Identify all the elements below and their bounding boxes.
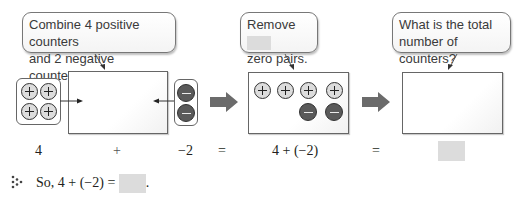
negative-counter-icon: [299, 103, 317, 121]
positive-counter-icon: [21, 103, 38, 120]
dotted-triangle-icon: [10, 174, 24, 190]
equals-sign: =: [218, 143, 226, 159]
callout-combine: Combine 4 positive counters and 2 negati…: [22, 12, 176, 53]
term-four: 4: [35, 143, 42, 159]
positive-counter-icon: [40, 103, 57, 120]
answer-blank[interactable]: [438, 141, 465, 161]
negative-counter-icon: [177, 84, 195, 102]
summary-line: So, 4 + (−2) = .: [36, 174, 149, 193]
callout-pointer-icon: [446, 52, 460, 72]
big-arrow-right-icon: [210, 92, 238, 112]
arrow-left-icon: [152, 97, 176, 105]
callout-remove-line2: zero pairs.: [247, 50, 311, 67]
positive-counter-icon: [300, 82, 317, 99]
summary-text: So, 4 + (−2) =: [36, 175, 115, 190]
positive-counter-icon: [277, 82, 294, 99]
expression: 4 + (−2): [272, 143, 318, 159]
equals-sign: =: [372, 143, 380, 159]
big-arrow-right-icon: [362, 92, 390, 112]
negative-counter-icon: [325, 103, 343, 121]
answer-blank[interactable]: [247, 36, 271, 50]
positive-counter-icon: [21, 83, 38, 100]
callout-total: What is the total number of counters?: [392, 12, 511, 53]
positive-counter-icon: [254, 82, 271, 99]
answer-blank[interactable]: [119, 174, 146, 193]
callout-pointer-icon: [92, 52, 108, 72]
negative-counter-group: [174, 79, 198, 126]
callout-remove-line1: Remove: [247, 17, 295, 32]
summary-period: .: [146, 175, 150, 190]
arrow-right-icon: [60, 97, 84, 105]
positive-counter-icon: [326, 82, 343, 99]
term-negative-two: −2: [178, 143, 193, 159]
callout-total-line1: What is the total: [399, 16, 504, 33]
callout-combine-line1: Combine 4 positive counters: [29, 16, 169, 50]
positive-counter-icon: [40, 83, 57, 100]
plus-sign: +: [113, 143, 121, 159]
negative-counter-icon: [177, 104, 195, 122]
callout-pointer-icon: [282, 52, 298, 72]
positive-counter-group: [16, 78, 61, 125]
zero-pairs-box: [248, 72, 349, 134]
callout-remove: Remove zero pairs.: [240, 12, 318, 53]
total-box: [402, 72, 503, 134]
